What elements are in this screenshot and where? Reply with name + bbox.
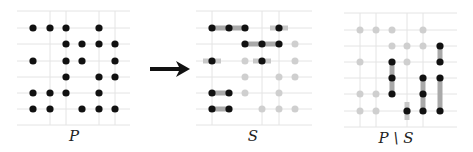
point-dot-gray: [276, 90, 283, 97]
point-dot-black: [111, 40, 118, 47]
point-dot-black: [29, 57, 36, 64]
point-dot-gray: [357, 27, 364, 34]
panel-p-minus-s-grid: [344, 13, 457, 127]
point-dot-black: [436, 58, 443, 65]
point-dot-black: [241, 24, 248, 31]
point-dot-black: [62, 40, 69, 47]
point-dot-gray: [292, 58, 299, 65]
point-dot-black: [436, 74, 443, 81]
point-dot-gray: [373, 91, 380, 98]
panel-s-grid: [196, 11, 312, 125]
point-dot-gray: [242, 58, 249, 65]
point-dot-black: [95, 105, 102, 112]
point-dot-gray: [373, 27, 380, 34]
point-dot-gray: [404, 43, 411, 50]
point-dot-gray: [420, 43, 427, 50]
point-dot-black: [208, 24, 215, 31]
point-dot-gray: [420, 27, 427, 34]
point-dot-black: [419, 90, 426, 97]
point-dot-black: [95, 73, 102, 80]
point-dot-black: [95, 40, 102, 47]
point-dot-black: [275, 40, 282, 47]
point-dot-black: [241, 40, 248, 47]
point-dot-black: [78, 57, 85, 64]
point-dot-gray: [242, 90, 249, 97]
point-dot-black: [388, 58, 395, 65]
panel-p-grid: [17, 11, 130, 125]
point-dot-gray: [357, 108, 364, 115]
point-dot-gray: [276, 106, 283, 113]
point-dot-black: [78, 105, 85, 112]
point-dot-black: [225, 105, 232, 112]
point-dot-black: [436, 107, 443, 114]
point-dot-black: [111, 105, 118, 112]
point-dot-black: [46, 105, 53, 112]
point-dot-gray: [242, 74, 249, 81]
point-dot-black: [62, 73, 69, 80]
point-dot-black: [95, 24, 102, 31]
point-dot-black: [419, 107, 426, 114]
point-dot-black: [29, 105, 36, 112]
point-dot-black: [46, 89, 53, 96]
point-dot-black: [111, 73, 118, 80]
point-dot-gray: [292, 106, 299, 113]
point-dot-black: [436, 42, 443, 49]
point-dot-gray: [292, 41, 299, 48]
point-dot-gray: [259, 106, 266, 113]
point-dot-gray: [357, 59, 364, 66]
point-dot-black: [208, 89, 215, 96]
point-dot-gray: [357, 91, 364, 98]
point-dot-black: [111, 57, 118, 64]
point-dot-black: [419, 74, 426, 81]
panel-label-s: S: [248, 127, 258, 145]
point-dot-gray: [389, 27, 396, 34]
point-dot-gray: [404, 59, 411, 66]
panel-label-p: P: [69, 127, 79, 145]
point-dot-black: [46, 24, 53, 31]
transform-arrow-icon: [150, 61, 190, 77]
point-dot-black: [208, 57, 215, 64]
point-dot-black: [78, 40, 85, 47]
panel-label-p-minus-s: P \ S: [379, 129, 414, 147]
point-dot-black: [388, 90, 395, 97]
point-dot-black: [275, 24, 282, 31]
point-dot-black: [29, 89, 36, 96]
point-dot-black: [62, 57, 69, 64]
point-dot-gray: [292, 74, 299, 81]
point-dot-black: [62, 89, 69, 96]
point-dot-black: [258, 40, 265, 47]
point-dot-black: [388, 74, 395, 81]
point-dot-gray: [276, 74, 283, 81]
point-dot-black: [208, 105, 215, 112]
point-dot-black: [29, 24, 36, 31]
point-dot-gray: [389, 43, 396, 50]
point-dot-black: [403, 107, 410, 114]
point-dot-black: [62, 24, 69, 31]
point-dot-gray: [373, 108, 380, 115]
point-dot-black: [95, 89, 102, 96]
point-dot-black: [258, 57, 265, 64]
point-dot-black: [225, 24, 232, 31]
point-dot-black: [225, 89, 232, 96]
